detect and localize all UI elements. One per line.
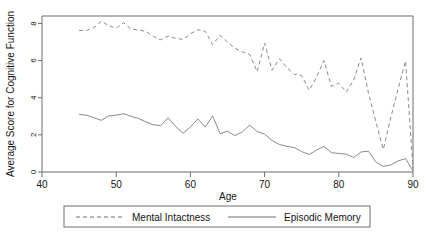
y-tick-label: 4	[29, 95, 38, 100]
legend-label-mental-intactness: Mental Intactness	[132, 212, 210, 223]
x-tick-label: 40	[36, 179, 48, 190]
chart-legend: Mental Intactness Episodic Memory	[64, 206, 370, 227]
y-axis-title: Average Score for Cognitive Function	[5, 11, 16, 177]
y-tick-label: 6	[29, 58, 38, 63]
x-tick-label: 80	[333, 179, 345, 190]
legend-label-episodic-memory: Episodic Memory	[284, 212, 361, 223]
x-tick-label: 70	[259, 179, 271, 190]
cognitive-function-line-chart: 02468 405060708090 Average Score for Cog…	[0, 0, 433, 234]
y-tick-label: 0	[29, 169, 38, 174]
x-tick-label: 90	[407, 179, 419, 190]
x-tick-label: 60	[185, 179, 197, 190]
y-tick-label: 2	[29, 132, 38, 137]
chart-background	[0, 0, 433, 234]
y-tick-label: 8	[29, 21, 38, 26]
x-tick-label: 50	[111, 179, 123, 190]
chart-figure: 02468 405060708090 Average Score for Cog…	[0, 0, 433, 234]
x-axis-title: Age	[219, 191, 237, 202]
